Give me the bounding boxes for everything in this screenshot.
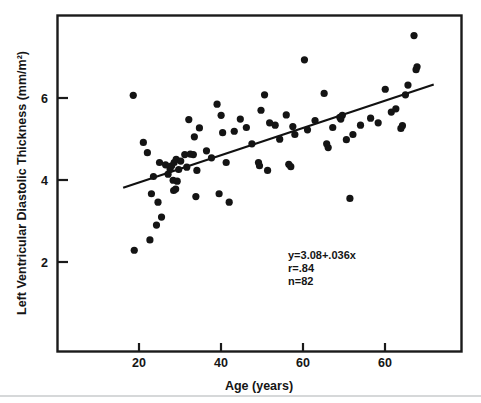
annotation-sample-size: n=82	[288, 275, 313, 287]
scatter-plot: 6 4 2 20 40 60 60 Age (years) Left Ventr…	[0, 0, 481, 403]
data-point	[264, 167, 271, 174]
data-point	[257, 107, 264, 114]
data-point	[291, 131, 298, 138]
data-point	[219, 129, 226, 136]
data-point	[343, 136, 350, 143]
y-tick-label-4: 4	[41, 174, 48, 188]
data-point	[231, 128, 238, 135]
data-point	[146, 236, 153, 243]
data-point	[311, 117, 318, 124]
data-point	[367, 115, 374, 122]
data-point	[208, 154, 215, 161]
x-tick-label-2: 40	[214, 356, 228, 370]
data-point	[261, 91, 268, 98]
data-point	[190, 151, 197, 158]
data-point	[174, 178, 181, 185]
data-point	[392, 105, 399, 112]
data-point	[304, 126, 311, 133]
plot-background	[0, 0, 481, 403]
data-point	[266, 119, 273, 126]
y-tick-label-2: 2	[41, 256, 48, 270]
annotation-correlation: r=.84	[288, 262, 315, 274]
data-point	[213, 101, 220, 108]
data-point	[289, 123, 296, 130]
data-point	[192, 193, 199, 200]
data-point	[196, 124, 203, 131]
y-tick-label-6: 6	[41, 92, 48, 106]
data-point	[183, 164, 190, 171]
data-point	[243, 124, 250, 131]
data-point	[413, 63, 420, 70]
data-point	[399, 122, 406, 129]
figure-container: 6 4 2 20 40 60 60 Age (years) Left Ventr…	[0, 0, 481, 403]
data-point	[329, 124, 336, 131]
data-point	[410, 32, 417, 39]
data-point	[175, 166, 182, 173]
x-tick-label-3: 60	[296, 356, 310, 370]
data-point	[216, 190, 223, 197]
data-point	[226, 199, 233, 206]
data-point	[287, 163, 294, 170]
data-point	[150, 173, 157, 180]
data-point	[237, 116, 244, 123]
data-point	[339, 112, 346, 119]
data-point	[144, 149, 151, 156]
data-point	[131, 247, 138, 254]
data-point	[193, 167, 200, 174]
data-point	[140, 139, 147, 146]
data-point	[346, 195, 353, 202]
data-point	[402, 91, 409, 98]
x-tick-label-4: 60	[378, 356, 392, 370]
data-point	[172, 186, 179, 193]
data-point	[191, 133, 198, 140]
data-point	[148, 190, 155, 197]
data-point	[382, 86, 389, 93]
annotation-equation: y=3.08+.036x	[288, 249, 357, 261]
data-point	[375, 119, 382, 126]
data-point	[154, 199, 161, 206]
data-point	[223, 159, 230, 166]
data-point	[276, 136, 283, 143]
data-point	[404, 81, 411, 88]
x-axis-title: Age (years)	[225, 379, 293, 393]
data-point	[301, 56, 308, 63]
data-point	[321, 90, 328, 97]
data-point	[203, 147, 210, 154]
data-point	[323, 140, 330, 147]
data-point	[218, 112, 225, 119]
data-point	[162, 161, 169, 168]
data-point	[158, 214, 165, 221]
data-point	[248, 140, 255, 147]
data-point	[130, 92, 137, 99]
y-axis-title: Left Ventricular Diastolic Thickness (mm…	[15, 51, 29, 315]
data-point	[153, 221, 160, 228]
data-point	[177, 158, 184, 165]
data-point	[283, 111, 290, 118]
data-point	[357, 122, 364, 129]
data-point	[349, 131, 356, 138]
data-point	[256, 162, 263, 169]
x-tick-label-1: 20	[132, 356, 146, 370]
data-point	[185, 116, 192, 123]
